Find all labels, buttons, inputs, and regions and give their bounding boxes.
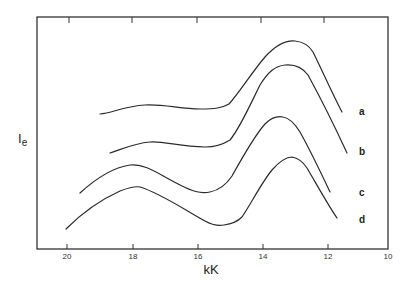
- tick-label-18: 18: [129, 252, 138, 261]
- curve-label-a: a: [359, 106, 365, 117]
- x-ticks-top: [69, 17, 324, 23]
- curve-b: [110, 65, 347, 153]
- plot-frame: [37, 17, 388, 249]
- tick-label-12: 12: [324, 252, 333, 261]
- curve-c: [80, 117, 330, 193]
- x-tick-labels: 20 18 16 14 12 10: [63, 252, 393, 261]
- y-axis-label: Ie: [18, 131, 28, 148]
- tick-label-16: 16: [194, 252, 203, 261]
- spectrum-chart: 20 18 16 14 12 10 kK Ie a b c d: [0, 0, 408, 283]
- tick-label-20: 20: [63, 252, 72, 261]
- curve-label-b: b: [359, 146, 365, 157]
- curve-label-d: d: [359, 214, 365, 225]
- tick-label-10: 10: [384, 252, 393, 261]
- tick-label-14: 14: [259, 252, 268, 261]
- x-axis-label: kK: [203, 262, 219, 277]
- curve-label-c: c: [359, 187, 365, 198]
- x-ticks-bottom: [67, 244, 328, 249]
- y-axis-label-sub: e: [22, 137, 28, 148]
- curve-a: [100, 41, 342, 114]
